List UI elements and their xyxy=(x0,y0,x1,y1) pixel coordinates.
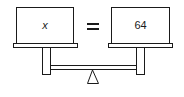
right-post xyxy=(137,48,145,75)
right-pan xyxy=(109,44,173,48)
right-pan-label: 64 xyxy=(111,20,170,31)
left-pan xyxy=(14,44,78,48)
left-post xyxy=(43,48,51,75)
balance-scale-diagram xyxy=(0,0,184,97)
left-pan-label: x xyxy=(16,20,74,31)
fulcrum-triangle xyxy=(88,70,99,84)
beam xyxy=(51,66,137,70)
equals-sign xyxy=(87,23,99,30)
